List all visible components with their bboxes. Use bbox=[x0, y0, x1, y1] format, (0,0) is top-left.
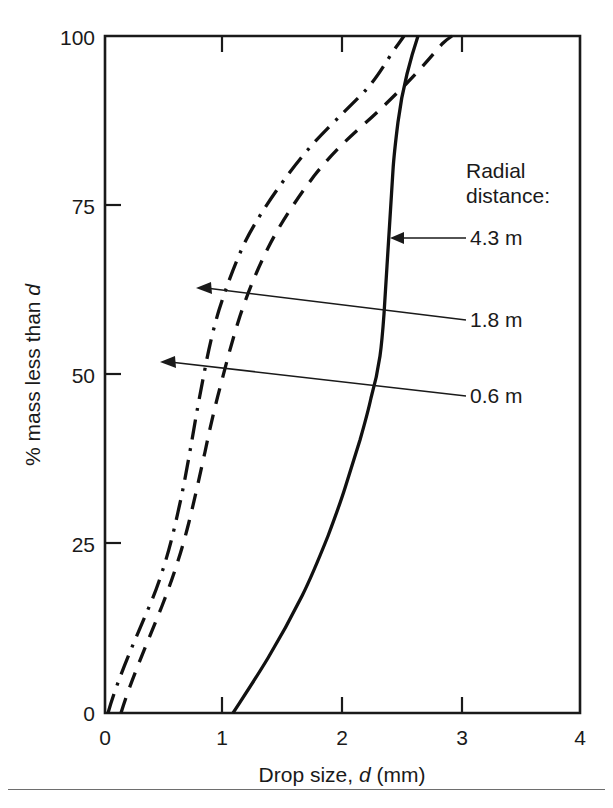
y-tick-label-0: 0 bbox=[83, 702, 95, 725]
figure-container: 0 1 2 3 4 0 25 50 75 100 Drop size, d (m… bbox=[0, 0, 613, 808]
series-curve-0-6m bbox=[108, 36, 404, 713]
x-axis-title: Drop size, d (mm) bbox=[259, 763, 426, 786]
annotation-4-3m: 4.3 m bbox=[390, 226, 523, 249]
annotation-1-8m: 1.8 m bbox=[196, 282, 523, 331]
y-tick-label-25: 25 bbox=[72, 533, 95, 556]
y-axis-title-prefix: % mass less than bbox=[21, 296, 44, 466]
plot-frame bbox=[105, 36, 580, 713]
y-tick-label-50: 50 bbox=[72, 364, 95, 387]
annotation-label-4-3m: 4.3 m bbox=[470, 226, 523, 249]
x-axis-title-prefix: Drop size, bbox=[259, 763, 359, 786]
arrowhead-4-3m bbox=[390, 232, 404, 244]
x-axis-ticks bbox=[222, 697, 462, 713]
legend-title: Radial distance: bbox=[466, 159, 550, 207]
x-tick-label-1: 1 bbox=[216, 726, 228, 749]
y-axis-title: % mass less than d bbox=[21, 283, 44, 466]
series-curve-1-8m bbox=[121, 36, 452, 713]
y-axis-ticks bbox=[105, 205, 121, 543]
x-tick-label-3: 3 bbox=[456, 726, 468, 749]
arrowhead-0-6m bbox=[160, 356, 176, 368]
y-axis-tick-labels: 0 25 50 75 100 bbox=[60, 26, 95, 725]
drop-size-distribution-chart: 0 1 2 3 4 0 25 50 75 100 Drop size, d (m… bbox=[0, 0, 613, 808]
annotation-label-0-6m: 0.6 m bbox=[470, 384, 523, 407]
arrowhead-1-8m bbox=[196, 282, 212, 294]
y-tick-label-75: 75 bbox=[72, 195, 95, 218]
annotation-label-1-8m: 1.8 m bbox=[470, 308, 523, 331]
x-axis-tick-labels: 0 1 2 3 4 bbox=[99, 726, 586, 749]
series-curve-4-3m bbox=[233, 36, 418, 713]
x-tick-label-0: 0 bbox=[99, 726, 111, 749]
footer-divider bbox=[8, 789, 605, 790]
x-tick-label-4: 4 bbox=[574, 726, 586, 749]
y-axis-title-italic: d bbox=[21, 283, 44, 296]
x-axis-title-suffix: (mm) bbox=[371, 763, 426, 786]
x-tick-label-2: 2 bbox=[336, 726, 348, 749]
y-tick-label-100: 100 bbox=[60, 26, 95, 49]
annotation-0-6m: 0.6 m bbox=[160, 356, 523, 407]
legend-title-line2: distance: bbox=[466, 184, 550, 207]
top-axis-ticks bbox=[222, 36, 462, 52]
legend-title-line1: Radial bbox=[466, 159, 526, 182]
